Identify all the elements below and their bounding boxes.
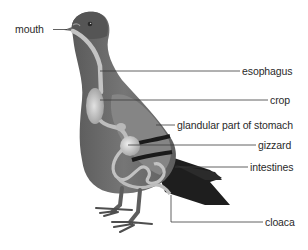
label-intestines: intestines — [250, 161, 293, 173]
label-glandular-stomach: glandular part of stomach — [177, 119, 293, 131]
legs — [96, 188, 152, 232]
gizzard-organ — [120, 136, 140, 156]
label-gizzard: gizzard — [258, 139, 291, 151]
pigeon-digestive-diagram: mouth esophagus crop glandular part of s… — [0, 0, 308, 250]
label-mouth: mouth — [15, 23, 44, 35]
label-esophagus: esophagus — [242, 65, 292, 77]
bird-body — [64, 12, 176, 194]
eye — [88, 22, 93, 27]
beak — [64, 27, 72, 31]
crop-organ — [86, 88, 104, 124]
glandular-stomach-organ — [116, 123, 126, 131]
label-cloaca: cloaca — [265, 216, 295, 228]
label-crop: crop — [270, 94, 290, 106]
